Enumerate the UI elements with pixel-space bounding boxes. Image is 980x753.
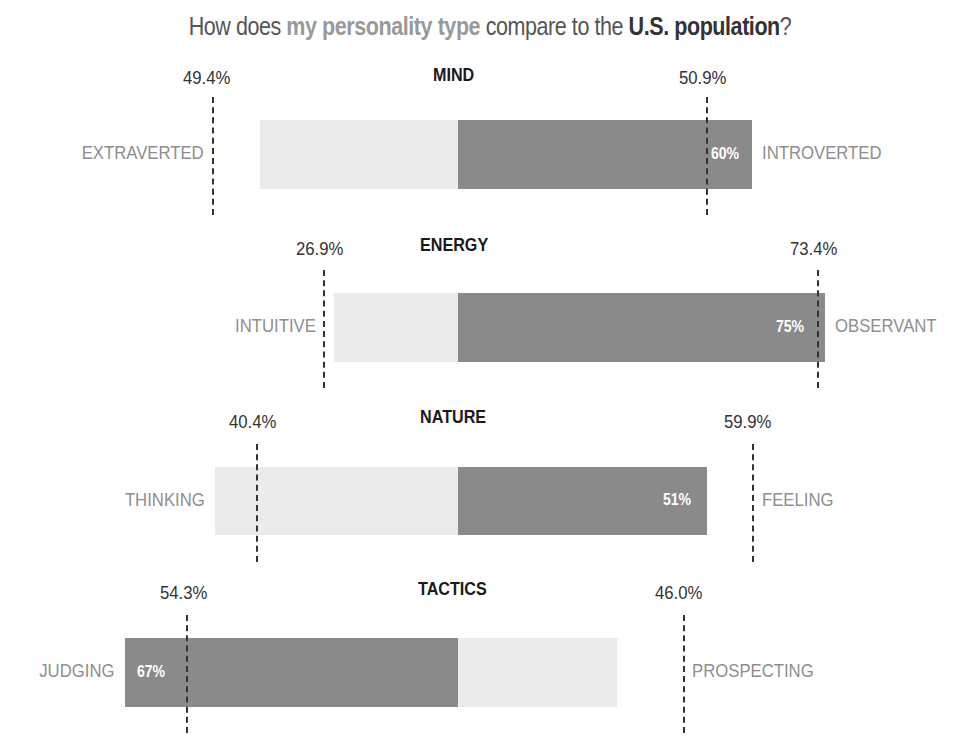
left-trait-label: THINKING bbox=[125, 489, 205, 511]
chart-title: How does my personality type compare to … bbox=[69, 12, 912, 41]
right-trait-label: FEELING bbox=[762, 489, 834, 511]
bar-my-trait bbox=[125, 638, 458, 707]
population-left-percent: 49.4% bbox=[183, 67, 230, 89]
my-value-label: 75% bbox=[776, 318, 804, 336]
bar-right-trait bbox=[458, 638, 617, 707]
section-title: TACTICS bbox=[418, 578, 487, 600]
section-title: NATURE bbox=[420, 406, 486, 428]
title-highlight: my personality type bbox=[286, 12, 480, 40]
my-value-label: 67% bbox=[137, 663, 165, 681]
population-marker-left bbox=[256, 444, 258, 562]
population-marker-left bbox=[186, 615, 188, 733]
left-trait-label: JUDGING bbox=[39, 660, 114, 682]
bar-left-trait bbox=[334, 293, 458, 362]
population-marker-left bbox=[212, 97, 214, 215]
population-left-percent: 26.9% bbox=[296, 238, 343, 260]
section-title: MIND bbox=[433, 64, 474, 86]
left-trait-label: INTUITIVE bbox=[235, 315, 316, 337]
bar-my-trait bbox=[458, 293, 825, 362]
left-trait-label: EXTRAVERTED bbox=[82, 142, 204, 164]
right-trait-label: OBSERVANT bbox=[835, 315, 937, 337]
population-right-percent: 59.9% bbox=[724, 411, 771, 433]
section-title: ENERGY bbox=[420, 234, 488, 256]
population-marker-right bbox=[683, 615, 685, 733]
population-left-percent: 54.3% bbox=[160, 582, 207, 604]
my-value-label: 51% bbox=[663, 491, 691, 509]
title-strong: U.S. population bbox=[629, 12, 780, 40]
bar-left-trait bbox=[215, 467, 458, 535]
population-marker-right bbox=[706, 97, 708, 215]
population-marker-right bbox=[752, 444, 754, 562]
population-left-percent: 40.4% bbox=[229, 411, 276, 433]
population-right-percent: 73.4% bbox=[790, 238, 837, 260]
population-marker-right bbox=[817, 270, 819, 388]
my-value-label: 60% bbox=[711, 145, 739, 163]
right-trait-label: PROSPECTING bbox=[692, 660, 814, 682]
population-marker-left bbox=[323, 270, 325, 388]
right-trait-label: INTROVERTED bbox=[762, 142, 882, 164]
population-right-percent: 50.9% bbox=[679, 67, 726, 89]
population-right-percent: 46.0% bbox=[655, 582, 702, 604]
bar-left-trait bbox=[260, 120, 458, 189]
